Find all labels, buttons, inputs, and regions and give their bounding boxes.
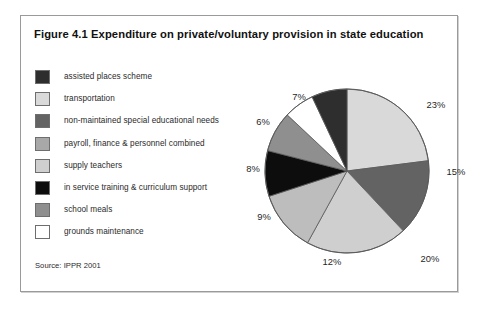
pie-slice-percent-label: 8%: [246, 163, 260, 174]
legend-item-label: grounds maintenance: [64, 227, 144, 237]
legend-swatch: [35, 203, 50, 217]
pie-slice-percent-label: 6%: [256, 116, 270, 127]
pie-slice-percent-label: 9%: [257, 211, 271, 222]
figure-title: Figure 4.1 Expenditure on private/volunt…: [34, 27, 444, 41]
legend-item[interactable]: supply teachers: [34, 155, 249, 177]
pie-slice-percent-label: 15%: [446, 166, 465, 177]
legend-item[interactable]: assisted places scheme: [34, 66, 249, 88]
legend-item-label: in service training & curriculum support: [64, 183, 207, 193]
figure-frame: Figure 4.1 Expenditure on private/volunt…: [20, 15, 458, 292]
legend-swatch: [35, 159, 50, 173]
legend-swatch: [35, 137, 50, 151]
legend-item[interactable]: in service training & curriculum support: [34, 177, 249, 199]
legend-item[interactable]: payroll, finance & personnel combined: [34, 133, 249, 155]
legend-item-label: assisted places scheme: [64, 72, 152, 82]
legend-item[interactable]: school meals: [34, 199, 249, 221]
legend-item-label: supply teachers: [64, 161, 122, 171]
legend-swatch: [35, 225, 50, 239]
legend-item-label: transportation: [64, 94, 115, 104]
legend-swatch: [35, 70, 50, 84]
chart-legend: assisted places schemetransportationnon-…: [34, 66, 249, 244]
pie-chart-svg: [237, 61, 457, 281]
legend-swatch: [35, 92, 50, 106]
legend-swatch: [35, 114, 50, 128]
legend-item-label: non-maintained special educational needs: [64, 116, 219, 126]
pie-slice-percent-label: 7%: [292, 91, 306, 102]
legend-item[interactable]: non-maintained special educational needs: [34, 110, 249, 132]
pie-slice-percent-label: 20%: [420, 253, 439, 264]
legend-item-label: payroll, finance & personnel combined: [64, 139, 205, 149]
pie-slice-percent-label: 23%: [426, 99, 445, 110]
pie-slice-percent-label: 12%: [322, 256, 341, 267]
legend-swatch: [35, 181, 50, 195]
legend-item[interactable]: transportation: [34, 88, 249, 110]
legend-item-label: school meals: [64, 205, 112, 215]
pie-chart: 23%15%20%12%9%8%6%7%: [237, 61, 457, 281]
legend-item[interactable]: grounds maintenance: [34, 221, 249, 243]
source-note: Source: IPPR 2001: [35, 261, 101, 270]
pie-slice[interactable]: [347, 89, 428, 171]
